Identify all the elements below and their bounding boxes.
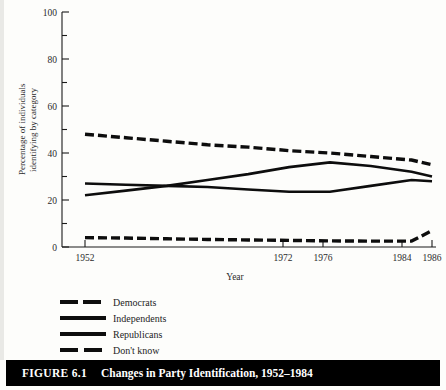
legend-item-democrats: Democrats bbox=[60, 297, 156, 308]
legend-item-republicans: Republicans bbox=[60, 329, 163, 340]
figure-caption-text: Changes in Party Identification, 1952–19… bbox=[101, 367, 313, 379]
y-tick-label-0: 0 bbox=[52, 243, 57, 253]
legend-label-independents: Independents bbox=[113, 313, 166, 324]
series-line-dont-know bbox=[85, 231, 432, 242]
line-chart: 100 80 60 40 20 0 Percentage of individu… bbox=[0, 0, 446, 360]
legend-label-republicans: Republicans bbox=[113, 329, 163, 340]
series-line-democrats bbox=[85, 134, 432, 165]
x-tick-label-1976: 1976 bbox=[314, 253, 333, 263]
legend-label-democrats: Democrats bbox=[113, 297, 156, 308]
x-tick-label-1984: 1984 bbox=[393, 253, 412, 263]
y-tick-label-20: 20 bbox=[48, 196, 58, 206]
figure-caption-bar: FIGURE 6.1 Changes in Party Identificati… bbox=[6, 360, 440, 386]
series-group bbox=[85, 134, 432, 241]
x-tick-label-1986: 1986 bbox=[423, 253, 442, 263]
legend-item-dont-know: Don't know bbox=[60, 345, 160, 356]
figure-container: 100 80 60 40 20 0 Percentage of individu… bbox=[0, 0, 446, 390]
figure-caption-number: FIGURE 6.1 bbox=[22, 367, 87, 379]
x-tick-label-1952: 1952 bbox=[76, 253, 95, 263]
y-axis: 100 80 60 40 20 0 bbox=[43, 8, 69, 253]
legend-label-dont-know: Don't know bbox=[113, 345, 160, 356]
legend-item-independents: Independents bbox=[60, 313, 166, 324]
x-tick-label-1972: 1972 bbox=[274, 253, 293, 263]
y-tick-label-60: 60 bbox=[48, 102, 58, 112]
y-tick-label-40: 40 bbox=[48, 149, 58, 159]
y-axis-title: Percentage of individuals identifying by… bbox=[17, 83, 38, 175]
y-tick-label-80: 80 bbox=[48, 55, 58, 65]
y-tick-label-100: 100 bbox=[43, 8, 58, 18]
chart-legend: Democrats Independents Republicans Don't… bbox=[60, 297, 166, 356]
x-axis-title: Year bbox=[226, 272, 244, 282]
x-axis: 1952 1972 1976 1984 1986 Year bbox=[62, 240, 442, 282]
y-axis-title-line1: Percentage of individuals bbox=[17, 83, 27, 175]
y-axis-title-line2: identifying by category bbox=[28, 88, 38, 172]
